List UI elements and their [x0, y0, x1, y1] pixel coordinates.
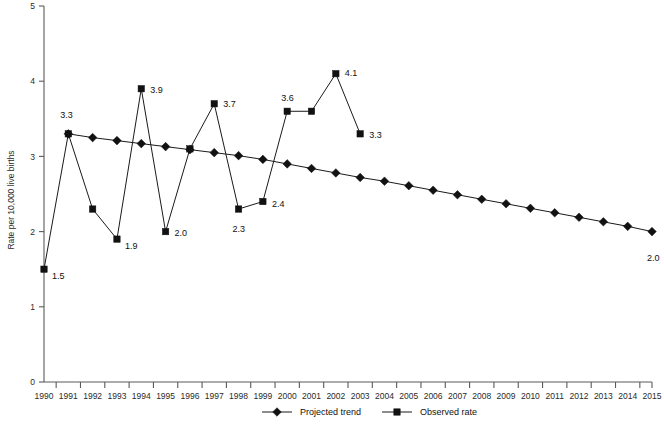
- x-axis-tick-label: 2003: [351, 391, 370, 401]
- data-point-marker-square: [357, 131, 363, 137]
- x-axis-tick-label: 2002: [326, 391, 345, 401]
- data-point-label: 4.1: [345, 68, 358, 78]
- x-axis-tick-label: 2008: [472, 391, 491, 401]
- x-axis-tick-label: 2004: [375, 391, 394, 401]
- data-point-label: 2.3: [233, 224, 246, 234]
- data-point-label: 3.9: [150, 85, 163, 95]
- x-axis-tick-label: 2013: [594, 391, 613, 401]
- x-axis-tick-label: 2005: [399, 391, 418, 401]
- data-point-marker-square: [260, 198, 266, 204]
- y-axis-tick-label: 1: [30, 302, 35, 312]
- x-axis-tick-label: 2012: [570, 391, 589, 401]
- x-axis-tick-label: 2007: [448, 391, 467, 401]
- data-point-label: 3.3: [60, 110, 73, 120]
- y-axis-tick-label: 3: [30, 152, 35, 162]
- data-point-label: 3.3: [369, 130, 382, 140]
- data-point-marker-square: [89, 206, 95, 212]
- x-axis-tick-label: 2009: [497, 391, 516, 401]
- data-point-label: 2.0: [647, 253, 660, 263]
- y-axis-tick-label: 0: [30, 377, 35, 387]
- y-axis-tick-label: 5: [30, 1, 35, 11]
- data-point-marker-square: [284, 108, 290, 114]
- legend-label-2: Observed rate: [420, 407, 477, 417]
- data-point-marker-square: [211, 101, 217, 107]
- data-point-marker-square: [162, 228, 168, 234]
- x-axis-tick-label: 2000: [278, 391, 297, 401]
- y-axis-tick-label: 4: [30, 76, 35, 86]
- x-axis-tick-label: 1995: [156, 391, 175, 401]
- x-axis-tick-label: 1998: [229, 391, 248, 401]
- x-axis-tick-label: 1999: [253, 391, 272, 401]
- x-axis-tick-label: 2001: [302, 391, 321, 401]
- x-axis-tick-label: 1990: [35, 391, 54, 401]
- x-axis-tick-label: 2010: [521, 391, 540, 401]
- data-point-label: 1.9: [125, 241, 138, 251]
- data-point-label: 3.7: [223, 99, 236, 109]
- legend-marker-square: [394, 409, 400, 415]
- x-axis-tick-label: 2011: [546, 391, 565, 401]
- data-point-label: 1.5: [52, 271, 65, 281]
- data-point-marker-square: [114, 236, 120, 242]
- rate-per-10000-live-births-line-chart: 012345 199019911992199319941995199619971…: [0, 0, 664, 424]
- data-point-label: 2.0: [175, 228, 188, 238]
- x-axis-tick-label: 1996: [180, 391, 199, 401]
- x-axis-tick-label: 1994: [132, 391, 151, 401]
- x-axis-tick-label: 1992: [83, 391, 102, 401]
- x-axis-tick-label: 2014: [618, 391, 637, 401]
- chart-background: [0, 0, 664, 424]
- data-point-marker-square: [138, 86, 144, 92]
- data-point-label: 3.6: [281, 93, 294, 103]
- x-axis-tick-label: 2006: [424, 391, 443, 401]
- data-point-marker-square: [235, 206, 241, 212]
- data-point-label: 2.4: [272, 199, 285, 209]
- x-axis-tick-label: 1993: [107, 391, 126, 401]
- x-axis-tick-label: 1991: [59, 391, 78, 401]
- x-axis-tick-label: 2015: [643, 391, 662, 401]
- chart-container: 012345 199019911992199319941995199619971…: [0, 0, 664, 424]
- data-point-marker-square: [333, 70, 339, 76]
- legend-label-1: Projected trend: [300, 407, 361, 417]
- x-axis-tick-label: 1997: [205, 391, 224, 401]
- y-axis-title: Rate per 10,000 live births: [6, 150, 16, 249]
- y-axis-tick-label: 2: [30, 227, 35, 237]
- data-point-marker-square: [41, 266, 47, 272]
- data-point-marker-square: [308, 108, 314, 114]
